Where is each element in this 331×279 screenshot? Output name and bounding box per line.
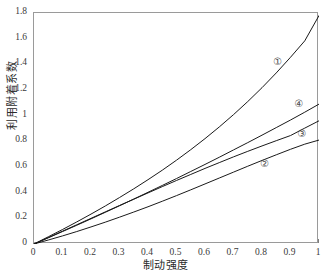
y-axis-label: 利用附着系数 bbox=[3, 49, 17, 141]
y-tick-label: 0.4 bbox=[15, 187, 27, 197]
x-axis-label: 制动强度 bbox=[0, 256, 331, 272]
curve-label-3: ③ bbox=[297, 129, 306, 139]
curve-④ bbox=[34, 104, 319, 244]
curve-label-2: ② bbox=[260, 159, 269, 169]
y-tick-label: 0 bbox=[22, 238, 27, 248]
chart-figure: 00.20.40.60.811.21.41.61.8 00.10.20.30.4… bbox=[0, 0, 331, 279]
curve-label-1: ① bbox=[273, 57, 282, 67]
y-tick-label: 1.6 bbox=[15, 33, 27, 43]
y-tick-label: 1.8 bbox=[15, 7, 27, 17]
plot-area: ①④③② bbox=[33, 12, 318, 243]
y-tick-label: 0.6 bbox=[15, 161, 27, 171]
curve-② bbox=[34, 140, 319, 244]
y-tick-label: 0.2 bbox=[15, 212, 27, 222]
y-tick-label: 1 bbox=[22, 110, 27, 120]
curve-label-4: ④ bbox=[295, 99, 304, 109]
curve-① bbox=[34, 16, 319, 244]
curves-group bbox=[34, 13, 319, 244]
